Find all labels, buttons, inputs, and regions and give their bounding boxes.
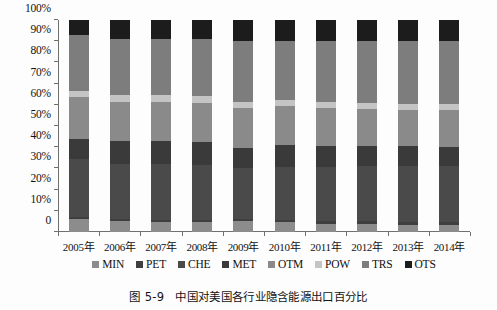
bar-segment-otm[interactable]	[69, 97, 89, 138]
x-axis-tick-mark	[99, 232, 100, 236]
bar-segment-met[interactable]	[439, 147, 459, 166]
legend-swatch-icon	[222, 261, 229, 268]
x-axis-tick-label: 2005年	[63, 238, 95, 254]
x-axis-tick-mark	[470, 232, 471, 236]
bar-stack[interactable]	[316, 20, 336, 232]
bar-segment-ots[interactable]	[357, 20, 377, 41]
bar-segment-met[interactable]	[192, 142, 212, 165]
bar-segment-otm[interactable]	[316, 108, 336, 146]
bar-stack[interactable]	[233, 20, 253, 232]
bar-segment-che[interactable]	[316, 167, 336, 221]
x-axis-tick-label: 2012年	[351, 238, 383, 254]
bar-segment-che[interactable]	[110, 164, 130, 219]
bar-segment-trs[interactable]	[192, 39, 212, 96]
bar-segment-otm[interactable]	[233, 108, 253, 148]
bar-segment-min[interactable]	[110, 221, 130, 232]
bar-segment-otm[interactable]	[110, 102, 130, 141]
bar-segment-min[interactable]	[439, 225, 459, 232]
bar-segment-ots[interactable]	[439, 20, 459, 41]
legend-swatch-icon	[405, 261, 412, 268]
chart-legend: MINPETCHEMETOTMPOWTRSOTS	[58, 258, 470, 270]
bar-segment-ots[interactable]	[110, 20, 130, 39]
bar-segment-che[interactable]	[69, 159, 89, 217]
bar-segment-otm[interactable]	[192, 103, 212, 142]
bar-segment-ots[interactable]	[398, 20, 418, 41]
bar-segment-min[interactable]	[151, 222, 171, 232]
bar-stack[interactable]	[439, 20, 459, 232]
bar-segment-min[interactable]	[192, 222, 212, 232]
legend-item-met[interactable]: MET	[222, 258, 256, 270]
bar-segment-trs[interactable]	[69, 35, 89, 91]
bar-segment-ots[interactable]	[316, 20, 336, 41]
bar-segment-min[interactable]	[233, 221, 253, 232]
y-axis-tick-label: 0	[45, 214, 51, 226]
y-axis-tick-label: 60%	[31, 87, 51, 99]
bar-segment-che[interactable]	[398, 166, 418, 222]
bar-segment-met[interactable]	[398, 146, 418, 166]
bar-segment-met[interactable]	[151, 141, 171, 164]
bar-segment-trs[interactable]	[275, 41, 295, 99]
bar-segment-met[interactable]	[110, 141, 130, 164]
bar-segment-ots[interactable]	[69, 20, 89, 35]
bar-segment-min[interactable]	[275, 222, 295, 232]
legend-item-min[interactable]: MIN	[92, 258, 124, 270]
x-axis-tick-label: 2013年	[392, 238, 424, 254]
bar-segment-otm[interactable]	[398, 110, 418, 146]
bar-segment-trs[interactable]	[233, 41, 253, 101]
bar-stack[interactable]	[110, 20, 130, 232]
y-axis-tick-mark	[54, 83, 58, 84]
x-axis-tick-mark	[388, 232, 389, 236]
bar-stack[interactable]	[69, 20, 89, 232]
bar-segment-trs[interactable]	[398, 41, 418, 104]
bar-segment-che[interactable]	[357, 166, 377, 221]
x-axis-tick-mark	[58, 232, 59, 236]
bar-segment-che[interactable]	[233, 168, 253, 219]
bar-stack[interactable]	[151, 20, 171, 232]
y-axis-tick-mark	[54, 104, 58, 105]
bar-segment-otm[interactable]	[439, 110, 459, 147]
bar-segment-che[interactable]	[439, 166, 459, 222]
bar-segment-met[interactable]	[316, 146, 336, 167]
legend-item-label: POW	[325, 258, 350, 270]
bar-segment-otm[interactable]	[151, 102, 171, 141]
bar-segment-otm[interactable]	[275, 106, 295, 145]
bar-segment-trs[interactable]	[439, 41, 459, 104]
caption-text: 中国对美国各行业隐含能源出口百分比	[175, 290, 367, 304]
bar-segment-met[interactable]	[275, 145, 295, 167]
bar-segment-met[interactable]	[357, 146, 377, 166]
x-axis-tick-mark	[223, 232, 224, 236]
legend-item-ots[interactable]: OTS	[405, 258, 436, 270]
bar-segment-ots[interactable]	[192, 20, 212, 39]
bar-segment-trs[interactable]	[151, 39, 171, 95]
bar-segment-trs[interactable]	[110, 39, 130, 95]
x-axis-tick-label: 2006年	[104, 238, 136, 254]
bar-segment-ots[interactable]	[151, 20, 171, 39]
bar-stack[interactable]	[398, 20, 418, 232]
bar-segment-trs[interactable]	[357, 41, 377, 102]
bar-stack[interactable]	[275, 20, 295, 232]
bar-segment-ots[interactable]	[233, 20, 253, 41]
y-axis-tick-mark	[54, 40, 58, 41]
legend-item-trs[interactable]: TRS	[362, 258, 393, 270]
bar-stack[interactable]	[192, 20, 212, 232]
legend-item-pow[interactable]: POW	[315, 258, 350, 270]
bar-segment-min[interactable]	[357, 224, 377, 232]
bar-segment-che[interactable]	[192, 165, 212, 220]
bar-segment-trs[interactable]	[316, 41, 336, 101]
bar-segment-ots[interactable]	[275, 20, 295, 41]
bar-segment-met[interactable]	[69, 139, 89, 159]
legend-item-che[interactable]: CHE	[178, 258, 210, 270]
legend-swatch-icon	[268, 261, 275, 268]
bar-stack[interactable]	[357, 20, 377, 232]
legend-item-pet[interactable]: PET	[136, 258, 166, 270]
legend-item-otm[interactable]: OTM	[268, 258, 303, 270]
bar-segment-otm[interactable]	[357, 109, 377, 146]
bar-segment-min[interactable]	[398, 225, 418, 232]
bar-segment-met[interactable]	[233, 148, 253, 168]
bar-segment-che[interactable]	[275, 167, 295, 220]
y-axis-tick-label: 70%	[31, 66, 51, 78]
bar-segment-min[interactable]	[316, 224, 336, 232]
bar-segment-che[interactable]	[151, 164, 171, 220]
legend-item-label: MET	[232, 258, 256, 270]
bar-segment-min[interactable]	[69, 219, 89, 232]
